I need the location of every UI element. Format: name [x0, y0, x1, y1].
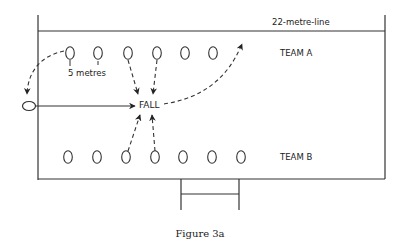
team-a-players [66, 47, 218, 60]
fall-label: FALL [139, 100, 160, 110]
field-boundary [38, 15, 385, 180]
distance-label: 5 metres [68, 68, 106, 78]
line-label: 22-metre-line [272, 17, 330, 27]
player-icon [181, 47, 190, 60]
distance-marker [70, 60, 98, 66]
movement-arrows [27, 44, 242, 151]
player-icon [64, 151, 73, 164]
team-a-label: TEAM A [279, 48, 312, 58]
team-b-label: TEAM B [279, 152, 312, 162]
player-icon [93, 151, 102, 164]
team-a-arrow-1 [128, 60, 138, 94]
team-a-arrow-2 [153, 60, 157, 94]
team-b-players [64, 151, 246, 164]
player-icon [153, 47, 162, 60]
player-icon [209, 47, 218, 60]
player-icon [94, 47, 103, 60]
player-icon [124, 47, 133, 60]
break-away-arrow [164, 44, 242, 104]
player-icon [151, 151, 160, 164]
team-b-arrow-2 [152, 115, 155, 151]
player-icon [179, 151, 188, 164]
player-icon [66, 47, 75, 60]
goal-posts [181, 179, 239, 210]
player-icon [208, 151, 217, 164]
thrower-player-icon [23, 102, 36, 111]
team-b-arrow-1 [128, 115, 140, 151]
player-to-thrower-arrow [27, 51, 64, 94]
figure-caption: Figure 3a [175, 228, 224, 239]
scrum-diagram: 22-metre-line TEAM A TEAM B FALL 5 metre… [0, 0, 400, 246]
player-icon [122, 151, 131, 164]
player-icon [237, 151, 246, 164]
